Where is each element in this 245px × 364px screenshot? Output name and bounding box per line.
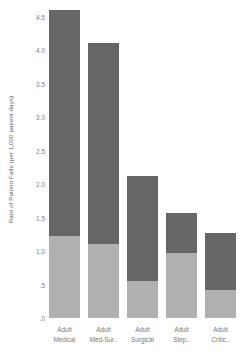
stacked-bar[interactable] (88, 43, 119, 318)
x-label-line-1: Adult (43, 325, 86, 335)
y-axis-title: Rate of Patient Falls (per 1,000 patient… (0, 0, 22, 318)
y-axis-tick: 1.0 (36, 248, 45, 255)
x-axis-tick-labels: AdultMedicalAdultMed-Sur..AdultSurgicalA… (48, 318, 245, 364)
y-axis-tick: 2.0 (36, 181, 45, 188)
y-axis-tick: .0 (40, 315, 45, 322)
y-axis-title-text: Rate of Patient Falls (per 1,000 patient… (8, 95, 15, 222)
x-axis-category-label: AdultSurgical (121, 325, 164, 344)
bar-segment-upper (49, 10, 80, 236)
y-axis-tick: 1.5 (36, 214, 45, 221)
bar-segment-lower (166, 253, 197, 318)
stacked-bar[interactable] (49, 10, 80, 318)
y-axis-tick: 4.5 (36, 13, 45, 20)
y-axis-tick: 4.0 (36, 47, 45, 54)
bar-slot (49, 0, 80, 318)
stacked-bar[interactable] (166, 213, 197, 318)
bar-slot (88, 0, 119, 318)
x-label-line-1: Adult (121, 325, 164, 335)
x-label-line-2: Surgical (121, 335, 164, 345)
bar-segment-lower (88, 244, 119, 318)
x-axis-category-label: AdultCritic.. (199, 325, 242, 344)
stacked-bar[interactable] (127, 176, 158, 318)
bar-segment-upper (88, 43, 119, 245)
bar-segment-lower (127, 281, 158, 318)
bar-segment-upper (127, 176, 158, 281)
y-axis-tick: 3.5 (36, 80, 45, 87)
x-axis-category-label: AdultStep.. (160, 325, 203, 344)
bar-chart: Rate of Patient Falls (per 1,000 patient… (0, 0, 245, 364)
x-axis-category-label: AdultMed-Sur.. (82, 325, 125, 344)
bar-slot (127, 0, 158, 318)
bar-segment-lower (49, 236, 80, 318)
bar-segment-upper (166, 213, 197, 253)
x-label-line-1: Adult (160, 325, 203, 335)
bar-segment-upper (205, 233, 236, 290)
bar-slot (205, 0, 236, 318)
x-label-line-2: Critic.. (199, 335, 242, 345)
y-axis-tick: .5 (40, 281, 45, 288)
y-axis-tick: 3.0 (36, 114, 45, 121)
plot-area (48, 0, 245, 318)
x-axis-category-label: AdultMedical (43, 325, 86, 344)
x-label-line-1: Adult (82, 325, 125, 335)
stacked-bar[interactable] (205, 233, 236, 318)
x-label-line-2: Step.. (160, 335, 203, 345)
bar-segment-lower (205, 290, 236, 318)
x-label-line-2: Medical (43, 335, 86, 345)
y-axis-tick-labels: .0.51.01.52.02.53.03.54.04.5 (22, 0, 48, 364)
x-label-line-2: Med-Sur.. (82, 335, 125, 345)
bar-slot (166, 0, 197, 318)
x-label-line-1: Adult (199, 325, 242, 335)
y-axis-tick: 2.5 (36, 147, 45, 154)
